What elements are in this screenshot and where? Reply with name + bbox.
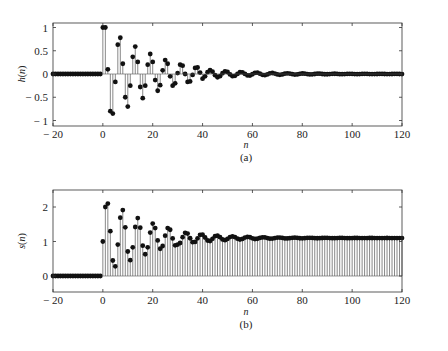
x-tick-label: − 20 [43,294,63,306]
axis-ticks-b: − 20020406080100120012 [43,190,411,306]
y-axis-label-a: h(n) [16,66,28,83]
chart-panel-a: − 20020406080100120− 1− 0.500.51 n (a) h… [16,22,411,165]
x-tick-label: 40 [197,128,209,140]
x-tick-label: 80 [297,294,309,306]
panel-caption-a: (a) [240,151,253,164]
stem-series-s [51,201,405,278]
panel-caption-b: (b) [240,318,253,331]
x-tick-label: 40 [197,294,209,306]
svg-text:h(n): h(n) [16,66,28,83]
figure: − 20020406080100120− 1− 0.500.51 n (a) h… [0,0,448,351]
x-axis-label-a: n [244,139,249,150]
x-tick-label: 20 [147,128,159,140]
stem-series-h [51,25,405,116]
y-tick-label: − 1 [34,115,48,127]
x-tick-label: 120 [394,294,411,306]
x-tick-label: 100 [344,128,361,140]
y-axis-label-b: s(n) [16,233,28,249]
y-tick-label: − 0.5 [25,91,48,103]
x-axis-label-b: n [244,306,249,317]
y-tick-label: 1 [43,22,49,34]
x-tick-label: 0 [100,294,106,306]
x-tick-label: 100 [344,294,361,306]
x-tick-label: − 20 [43,128,63,140]
y-tick-label: 0 [43,68,49,80]
svg-text:s(n): s(n) [16,233,28,249]
x-tick-label: 120 [394,128,411,140]
y-tick-label: 0 [43,270,49,282]
chart-panel-b: − 20020406080100120012 n (b) s(n) [16,190,411,331]
x-tick-label: 60 [247,294,259,306]
x-tick-label: 60 [247,128,259,140]
y-tick-label: 1 [43,236,49,248]
x-tick-label: 80 [297,128,309,140]
x-tick-label: 20 [147,294,159,306]
axis-ticks-a: − 20020406080100120− 1− 0.500.51 [25,22,410,141]
y-tick-label: 2 [43,201,49,213]
y-tick-label: 0.5 [34,45,48,57]
x-tick-label: 0 [100,128,106,140]
